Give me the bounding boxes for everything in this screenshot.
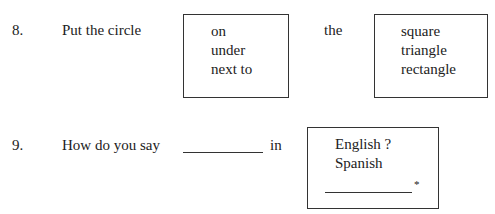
language-options-box: English ? Spanish * [307, 127, 439, 209]
preposition-options-box: on under next to [183, 14, 289, 98]
connector-text: the [324, 21, 342, 39]
footnote-marker: * [414, 178, 420, 190]
item-number: 9. [12, 136, 23, 154]
after-blank-text: in [270, 136, 282, 154]
answer-blank [183, 140, 263, 153]
option: English ? [335, 135, 391, 153]
shape-options-box: square triangle rectangle [374, 14, 488, 98]
item-prompt: Put the circle [62, 21, 141, 39]
option: Spanish [335, 154, 383, 172]
option: rectangle [401, 60, 456, 78]
language-blank [325, 180, 412, 193]
option: on [211, 22, 226, 40]
option: next to [211, 60, 252, 78]
option: triangle [401, 41, 447, 59]
option: under [211, 41, 245, 59]
item-prompt: How do you say [62, 136, 160, 154]
option: square [401, 22, 440, 40]
item-number: 8. [12, 21, 23, 39]
